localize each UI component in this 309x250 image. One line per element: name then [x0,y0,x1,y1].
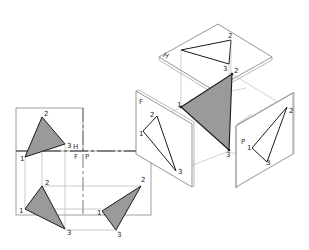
p-label-2: 2 [289,107,293,115]
profile-view-label-1: 1 [97,209,101,217]
p-label-3: 3 [266,159,270,167]
spatial-label-2: 2 [234,67,238,75]
spatial-label-1: 1 [177,101,181,109]
fold-label-f: F [74,153,78,161]
top-view-label-1: 1 [20,155,24,163]
fold-label-p: P [85,153,89,161]
front-view-triangle [25,186,65,229]
h-label-2: 2 [228,32,232,40]
f-label-2: 2 [150,111,154,119]
h-label-3: 3 [223,65,227,73]
frontal-plane-label: F [139,98,143,106]
profile-view-label-2: 2 [141,176,145,184]
front-view-label-3: 3 [67,229,71,237]
front-view-label-2: 2 [45,179,49,187]
orthographic-views: 2 3 1 2 3 1 2 3 1 H F P [16,108,151,239]
front-view-label-1: 1 [19,207,23,215]
f-label-1: 1 [139,130,143,138]
fold-label-h: H [73,143,78,151]
f-label-3: 3 [178,168,182,176]
profile-view-label-3: 3 [117,231,121,239]
horizontal-plane [159,24,272,90]
profile-plane-label: P [241,138,245,146]
top-view-label-3: 3 [67,142,71,150]
top-view-label-2: 2 [44,110,48,118]
pictorial-view: H 2 3 F 2 1 3 P 2 [136,24,294,188]
spatial-label-3: 3 [226,151,230,159]
p-label-1: 1 [247,144,251,152]
profile-view-triangle [102,186,141,230]
projection-diagram: 2 3 1 2 3 1 2 3 1 H F P H 2 3 [0,0,309,250]
point-2-marker [231,73,234,76]
